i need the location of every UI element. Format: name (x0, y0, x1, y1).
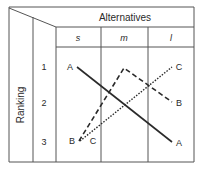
rank-1: 1 (41, 62, 46, 72)
label-b-start: B (69, 136, 75, 146)
rank-2: 2 (41, 98, 46, 108)
label-b-end: B (176, 98, 182, 108)
ranking-diagram: Alternatives s m l Ranking 1 2 3 A B C C… (0, 0, 201, 170)
table-grid (9, 7, 194, 162)
alternatives-header: Alternatives (99, 12, 151, 23)
label-a-start: A (67, 62, 73, 72)
label-a-end: A (176, 138, 182, 148)
ranking-label: Ranking (15, 87, 26, 124)
column-header-l: l (170, 33, 173, 43)
rank-3: 3 (41, 137, 46, 147)
label-c-end: C (176, 62, 183, 72)
column-header-s: s (76, 33, 81, 43)
label-c-start: C (90, 136, 97, 146)
series-c-dotted-line (80, 67, 172, 141)
column-header-m: m (120, 33, 128, 43)
